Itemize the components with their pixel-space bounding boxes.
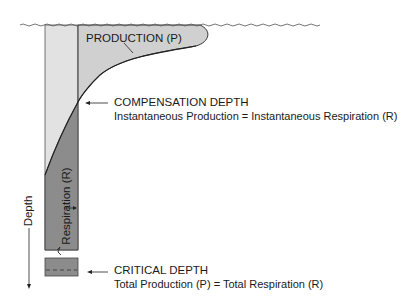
critical-title: CRITICAL DEPTH: [114, 264, 208, 276]
production-respiration-diagram: [0, 0, 419, 307]
compensation-title: COMPENSATION DEPTH: [114, 96, 249, 108]
critical-description: Total Production (P) = Total Respiration…: [114, 278, 323, 290]
compensation-arrow-head: [85, 101, 90, 105]
compensation-description: Instantaneous Production = Instantaneous…: [114, 110, 397, 122]
depth-label: Depth: [22, 191, 34, 231]
critical-depth-box: [45, 258, 78, 276]
respiration-label: Respiration (R): [60, 166, 72, 246]
production-label: PRODUCTION (P): [86, 32, 182, 44]
critical-arrow-head: [87, 270, 92, 274]
depth-arrow-head: [27, 284, 31, 289]
